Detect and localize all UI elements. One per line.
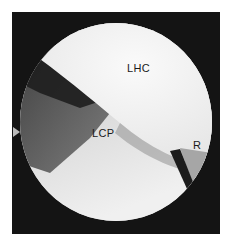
label-r: R [193,139,201,151]
label-lhc: LHC [127,62,150,74]
scope-scene [20,23,212,221]
endoscopic-view [20,23,212,221]
image-frame: LHC LCP R [12,12,220,234]
scope-orientation-notch [13,127,20,137]
label-lcp: LCP [92,127,114,139]
